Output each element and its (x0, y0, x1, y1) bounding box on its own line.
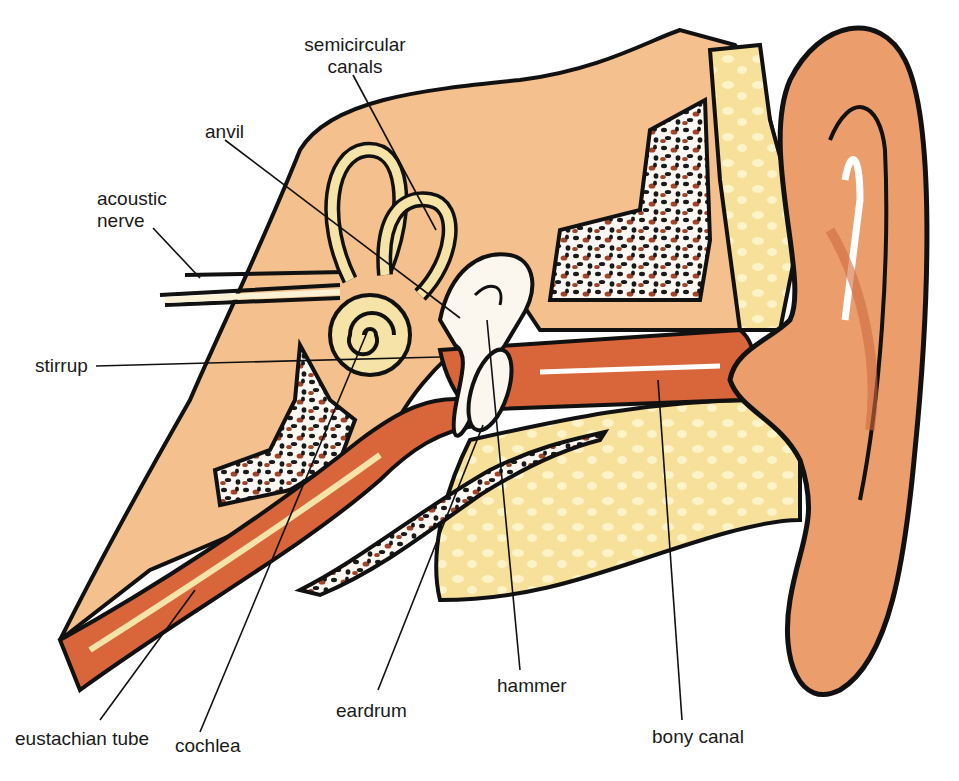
label-text: canals (300, 56, 410, 78)
ear-illustration (0, 0, 959, 781)
label-eustachian-tube: eustachian tube (15, 728, 149, 750)
lower-tissue-region (436, 400, 800, 600)
label-anvil: anvil (205, 121, 244, 143)
label-stirrup: stirrup (35, 355, 88, 377)
label-acoustic-nerve: acoustic nerve (97, 188, 167, 232)
label-bony-canal: bony canal (652, 726, 744, 748)
label-text: nerve (97, 210, 167, 232)
ear-anatomy-diagram: semicircular canals anvil acoustic nerve… (0, 0, 959, 781)
label-text: acoustic (97, 188, 167, 210)
label-cochlea: cochlea (175, 735, 241, 757)
label-semicircular-canals: semicircular canals (300, 34, 410, 78)
label-eardrum: eardrum (336, 700, 407, 722)
cochlea-shape (330, 295, 410, 375)
label-text: semicircular (300, 34, 410, 56)
label-hammer: hammer (497, 675, 567, 697)
